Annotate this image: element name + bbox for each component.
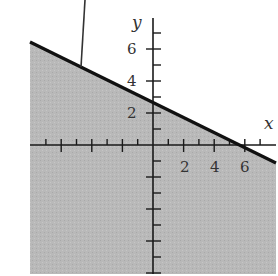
y-tick-label-4: 4	[127, 72, 137, 90]
x-tick-label-2: 2	[180, 158, 190, 176]
y-tick-label-2: 2	[127, 104, 137, 122]
x-tick-label-4: 4	[210, 158, 220, 176]
y-tick-label-6: 6	[127, 40, 137, 58]
annotation-pointer-line	[81, 0, 85, 67]
x-tick-label-6: 6	[240, 158, 250, 176]
inequality-graph: y x 6 4 2 2 4 6	[0, 0, 278, 276]
x-axis-label: x	[264, 113, 274, 133]
y-axis-label: y	[131, 12, 142, 32]
